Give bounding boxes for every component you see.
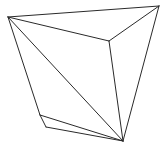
polyhedron-diagram (0, 0, 166, 147)
edge-AD (8, 17, 40, 115)
polyhedron-wireframe (0, 0, 166, 147)
edge-AB (8, 6, 159, 17)
edge-group (8, 6, 159, 141)
edge-CF (109, 41, 123, 141)
edge-AF (8, 17, 123, 141)
edge-AC (8, 17, 109, 41)
edge-BF (123, 6, 159, 141)
